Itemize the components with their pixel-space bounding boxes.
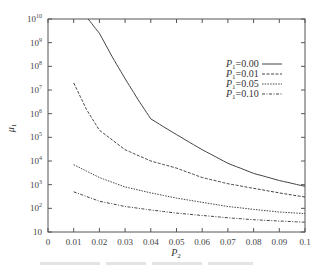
y-tick-label: 10 (33, 227, 43, 237)
y-tick-label: 108 (30, 60, 42, 71)
y-tick-label: 1010 (27, 13, 42, 24)
y-tick-label: 103 (30, 179, 42, 190)
y-tick-label: 105 (30, 131, 42, 142)
y-tick-label: 107 (30, 84, 42, 95)
x-tick-label: 0 (46, 237, 51, 247)
x-tick-label: 0.03 (117, 237, 133, 247)
plot-frame (48, 19, 305, 232)
x-tick-label: 0.1 (299, 237, 310, 247)
y-tick-label: 104 (30, 155, 42, 166)
y-tick-label: 109 (30, 37, 42, 48)
figure-caption-faded (40, 262, 280, 268)
x-tick-label: 0.05 (169, 237, 185, 247)
y-axis: 101021031041051061071081091010 (27, 13, 305, 237)
x-tick-label: 0.04 (143, 237, 159, 247)
x-tick-label: 0.01 (66, 237, 82, 247)
legend: P1=0.00P1=0.01P1=0.05P1=0.10 (225, 58, 282, 101)
x-tick-label: 0.07 (220, 237, 236, 247)
x-tick-label: 0.02 (92, 237, 108, 247)
x-axis-label: P2 (170, 247, 181, 260)
y-axis-label: μ1 (5, 123, 18, 133)
chart: 101021031041051061071081091010 00.010.02… (0, 0, 324, 273)
series-line-1 (74, 83, 305, 197)
series-line-3 (74, 192, 305, 222)
x-tick-label: 0.06 (194, 237, 210, 247)
x-tick-label: 0.08 (246, 237, 262, 247)
legend-label: P1=0.10 (225, 88, 259, 101)
y-tick-label: 106 (30, 108, 42, 119)
y-tick-label: 102 (30, 202, 42, 213)
x-tick-label: 0.09 (271, 237, 287, 247)
series-lines (74, 19, 305, 222)
series-line-2 (74, 165, 305, 214)
series-line-0 (88, 19, 305, 186)
